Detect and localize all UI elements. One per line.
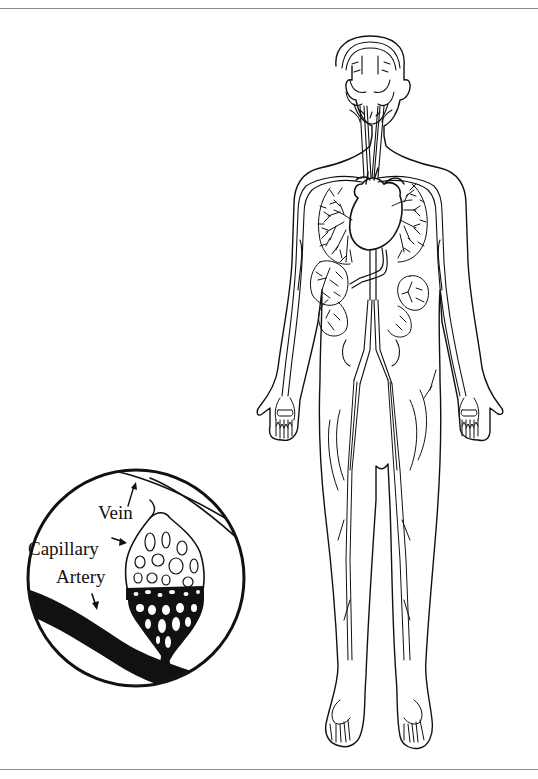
body-outline bbox=[257, 36, 503, 749]
label-vein: Vein bbox=[98, 503, 133, 522]
right-lung bbox=[392, 184, 427, 262]
neck-vessels bbox=[360, 106, 384, 178]
stomach-vessels bbox=[398, 276, 429, 311]
liver-vessels bbox=[310, 261, 348, 306]
left-lung bbox=[318, 188, 352, 264]
right-foot bbox=[404, 700, 424, 742]
aorta bbox=[350, 248, 387, 300]
left-foot bbox=[330, 700, 350, 742]
circulatory-diagram bbox=[0, 0, 538, 779]
leg-vessels bbox=[328, 370, 436, 660]
capillary-inset bbox=[28, 470, 260, 712]
label-capillary: Capillary bbox=[28, 539, 99, 558]
abdominal-vessels bbox=[343, 300, 400, 384]
right-hand bbox=[459, 398, 479, 438]
arm-vessels bbox=[282, 176, 466, 396]
left-hand bbox=[275, 398, 295, 438]
head-vessels bbox=[342, 42, 400, 124]
label-artery: Artery bbox=[56, 567, 106, 586]
